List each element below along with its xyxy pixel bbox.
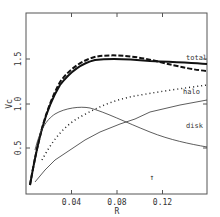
x-axis-label: R <box>115 207 120 216</box>
x-tick-label: 0.08 <box>107 198 126 207</box>
x-tick-label: 0.12 <box>153 198 172 207</box>
series-dashed <box>30 55 207 185</box>
plot-frame <box>26 13 207 194</box>
rotation-curve-chart: 0.04 0.08 0.12 R 0.5 1.0 1.5 Vc total ha… <box>0 0 220 217</box>
arrow-up-icon: ↑ <box>150 173 155 182</box>
y-tick-label: 1.0 <box>14 97 23 112</box>
y-ticks <box>26 59 207 148</box>
x-tick-label: 0.04 <box>62 198 81 207</box>
label-total: total <box>186 54 207 62</box>
series-halo <box>35 100 207 182</box>
label-halo: halo <box>183 88 200 96</box>
series-total <box>30 59 207 185</box>
y-tick-label: 0.5 <box>14 141 23 156</box>
y-tick-label: 1.5 <box>14 52 23 67</box>
series-disk <box>35 107 207 150</box>
label-disk: disk <box>186 122 204 130</box>
y-axis-label: Vc <box>5 99 14 109</box>
x-ticks <box>72 13 163 194</box>
